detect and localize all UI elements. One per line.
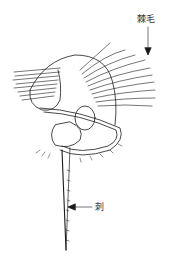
cirri-arrowhead (145, 48, 151, 55)
right-cirri (80, 43, 155, 106)
organism-illustration (0, 0, 173, 266)
spine-arrowhead (68, 204, 75, 210)
body-outline (30, 55, 116, 125)
cirri-label: 棘毛 (137, 15, 155, 24)
inner-loop (52, 122, 82, 147)
spine-label: 刺 (95, 203, 104, 212)
cilia (36, 144, 122, 241)
spine (62, 150, 66, 250)
left-cirri (13, 68, 60, 100)
